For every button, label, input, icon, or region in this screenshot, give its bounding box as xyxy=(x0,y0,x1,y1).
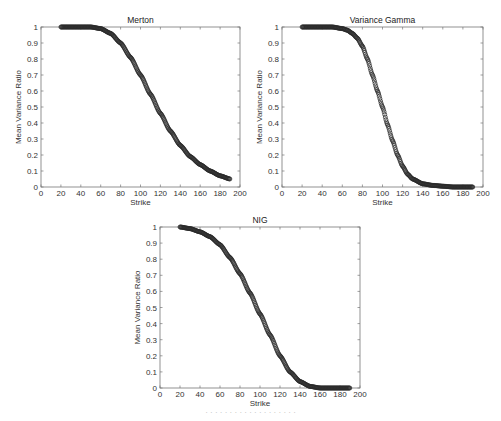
x-tick-label: 120 xyxy=(396,189,410,198)
y-tick-label: 0.8 xyxy=(268,55,280,64)
x-tick-label: 80 xyxy=(116,189,125,198)
y-tick-label: 0.6 xyxy=(146,287,158,296)
x-tick-label: 0 xyxy=(158,390,163,399)
data-series xyxy=(300,25,475,189)
y-tick-label: 0.2 xyxy=(146,352,158,361)
x-tick-label: 100 xyxy=(253,390,267,399)
x-tick-label: 180 xyxy=(333,390,347,399)
y-tick-label: 0.2 xyxy=(268,151,280,160)
axes-box xyxy=(41,27,240,187)
chart-panel-variance-gamma: 02040608010012014016018020000.10.20.30.4… xyxy=(255,15,490,207)
x-tick-label: 180 xyxy=(213,189,227,198)
y-tick-label: 0.3 xyxy=(146,336,158,345)
x-axis-label: Strike xyxy=(130,198,151,207)
y-tick-label: 0.2 xyxy=(27,151,39,160)
x-tick-label: 20 xyxy=(176,390,185,399)
x-tick-label: 200 xyxy=(476,189,490,198)
x-tick-label: 120 xyxy=(154,189,168,198)
x-tick-label: 40 xyxy=(76,189,85,198)
y-tick-label: 1 xyxy=(275,23,280,32)
y-tick-label: 0.9 xyxy=(268,39,280,48)
y-tick-label: 0.5 xyxy=(268,103,280,112)
y-tick-label: 0.6 xyxy=(27,87,39,96)
y-tick-label: 0.7 xyxy=(27,71,39,80)
x-axis-label: Strike xyxy=(372,198,393,207)
y-axis-label: Mean Variance Ratio xyxy=(14,69,23,144)
y-tick-label: 0 xyxy=(153,384,158,393)
x-tick-label: 160 xyxy=(313,390,327,399)
y-tick-label: 0.1 xyxy=(27,167,39,176)
y-tick-label: 0.3 xyxy=(268,135,280,144)
axes-box xyxy=(160,227,360,388)
y-tick-label: 0 xyxy=(275,183,280,192)
x-tick-label: 40 xyxy=(196,390,205,399)
x-tick-label: 200 xyxy=(353,390,367,399)
chart-title: Merton xyxy=(127,15,154,25)
y-axis-label: Mean Variance Ratio xyxy=(255,69,264,144)
y-tick-label: 0.7 xyxy=(268,71,280,80)
x-tick-label: 120 xyxy=(273,390,287,399)
x-tick-label: 160 xyxy=(436,189,450,198)
x-tick-label: 20 xyxy=(298,189,307,198)
x-tick-label: 160 xyxy=(194,189,208,198)
figure-caption: · · · · · · · · · · · · · · · · · · · xyxy=(0,408,501,417)
x-tick-label: 180 xyxy=(456,189,470,198)
y-tick-label: 1 xyxy=(153,223,158,232)
y-tick-label: 0.9 xyxy=(27,39,39,48)
x-tick-label: 40 xyxy=(318,189,327,198)
y-tick-label: 0.4 xyxy=(146,320,158,329)
x-tick-label: 100 xyxy=(376,189,390,198)
y-tick-label: 1 xyxy=(34,23,39,32)
x-tick-label: 20 xyxy=(56,189,65,198)
x-tick-label: 80 xyxy=(236,390,245,399)
x-tick-label: 0 xyxy=(39,189,44,198)
x-tick-label: 200 xyxy=(233,189,247,198)
y-tick-label: 0.8 xyxy=(27,55,39,64)
x-tick-label: 60 xyxy=(338,189,347,198)
x-axis-label: Strike xyxy=(250,399,271,408)
chart-figure: 02040608010012014016018020000.10.20.30.4… xyxy=(0,0,501,421)
y-tick-label: 0.4 xyxy=(27,119,39,128)
x-tick-label: 140 xyxy=(174,189,188,198)
y-tick-label: 0.1 xyxy=(268,167,280,176)
y-tick-label: 0.5 xyxy=(27,103,39,112)
data-series xyxy=(178,225,352,390)
data-series xyxy=(59,25,232,181)
x-tick-label: 100 xyxy=(134,189,148,198)
y-tick-label: 0.8 xyxy=(146,255,158,264)
y-tick-label: 0.6 xyxy=(268,87,280,96)
y-axis-label: Mean Variance Ratio xyxy=(133,270,142,345)
x-tick-label: 60 xyxy=(96,189,105,198)
y-tick-label: 0 xyxy=(34,183,39,192)
x-tick-label: 140 xyxy=(416,189,430,198)
y-tick-label: 0.5 xyxy=(146,304,158,313)
chart-title: Variance Gamma xyxy=(350,15,416,25)
chart-title: NIG xyxy=(252,215,267,225)
y-tick-label: 0.3 xyxy=(27,135,39,144)
y-tick-label: 0.4 xyxy=(268,119,280,128)
chart-panel-merton: 02040608010012014016018020000.10.20.30.4… xyxy=(14,15,247,207)
y-tick-label: 0.9 xyxy=(146,239,158,248)
x-tick-label: 0 xyxy=(280,189,285,198)
x-tick-label: 60 xyxy=(216,390,225,399)
chart-panel-nig: 02040608010012014016018020000.10.20.30.4… xyxy=(133,215,367,408)
x-tick-label: 140 xyxy=(293,390,307,399)
y-tick-label: 0.1 xyxy=(146,368,158,377)
x-tick-label: 80 xyxy=(358,189,367,198)
y-tick-label: 0.7 xyxy=(146,271,158,280)
